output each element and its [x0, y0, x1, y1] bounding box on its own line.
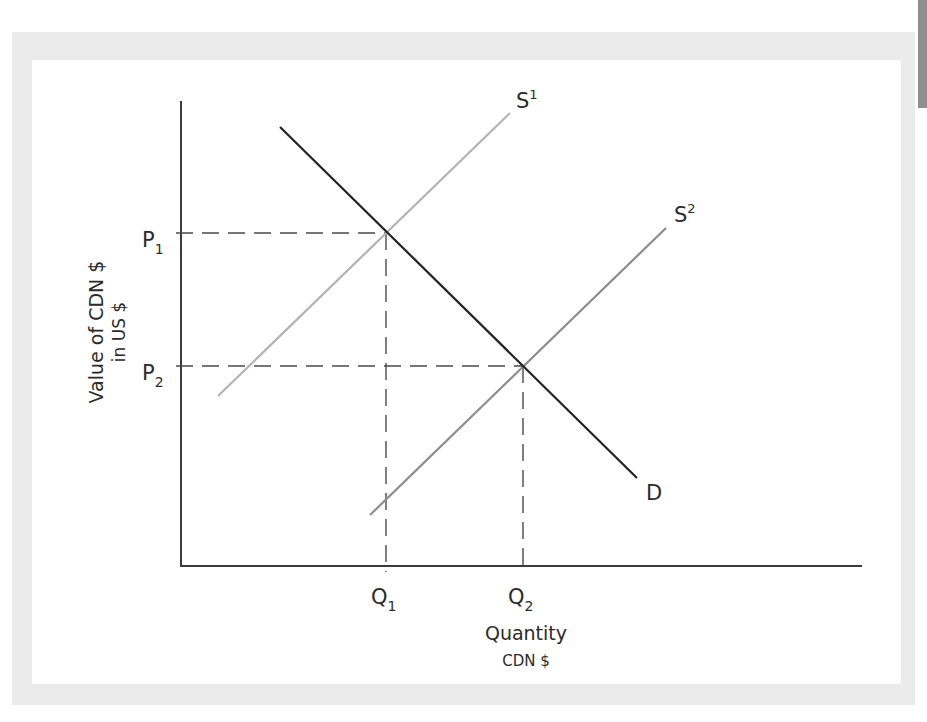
label-s2: S2 — [674, 201, 696, 227]
tick-p2: P2 — [142, 361, 164, 390]
label-d: D — [646, 481, 662, 505]
x-axis-title: Quantity — [485, 622, 567, 644]
supply-demand-chart: S1 S2 D P1 P2 Q1 Q2 Quantity CDN $ Value… — [0, 0, 927, 722]
guide-lines — [176, 233, 523, 572]
tick-q1: Q1 — [371, 585, 396, 614]
label-s1: S1 — [516, 87, 538, 113]
y-axis-subtitle: in US $ — [109, 302, 129, 362]
x-axis-subtitle: CDN $ — [502, 652, 550, 670]
tick-q2: Q2 — [508, 585, 533, 614]
demand-curve-d — [280, 127, 637, 478]
y-axis-title: Value of CDN $ — [85, 261, 107, 404]
supply-curve-s2 — [370, 228, 666, 515]
supply-curve-s1 — [218, 113, 510, 396]
tick-p1: P1 — [142, 228, 164, 257]
